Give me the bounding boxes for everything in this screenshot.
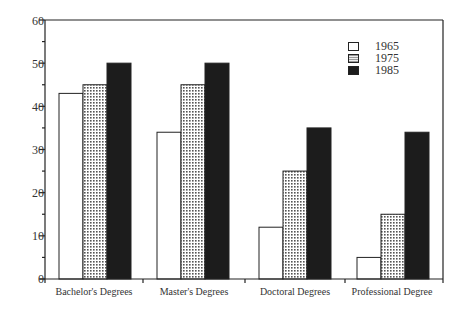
x-category-label: Professional Degree — [337, 286, 447, 297]
bar-1965 — [259, 227, 283, 279]
x-category-label: Bachelor's Degrees — [39, 286, 149, 297]
y-tick-label: 20 — [14, 186, 44, 201]
y-tick-label: 10 — [14, 229, 44, 244]
legend-item-1985: 1985 — [348, 64, 399, 76]
y-tick-label: 50 — [14, 57, 44, 72]
bar-1975 — [283, 171, 307, 279]
bar-1985 — [107, 63, 131, 279]
bar-1965 — [357, 257, 381, 279]
bar-1985 — [307, 128, 331, 279]
bar-1985 — [205, 63, 229, 279]
y-tick-label: 40 — [14, 100, 44, 115]
y-tick-label: 0 — [14, 272, 44, 287]
legend-swatch-dotted — [348, 54, 359, 63]
legend-swatch-white — [348, 42, 359, 51]
bar-1975 — [83, 85, 107, 279]
legend-swatch-black — [348, 66, 359, 75]
bar-1965 — [157, 132, 181, 279]
bar-1985 — [405, 132, 429, 279]
x-category-label: Doctoral Degrees — [240, 286, 350, 297]
y-tick-label: 30 — [14, 143, 44, 158]
bar-1975 — [181, 85, 205, 279]
x-category-label: Master's Degrees — [139, 286, 249, 297]
bar-1975 — [381, 214, 405, 279]
grouped-bar-chart: 0 10 20 30 40 50 60 Bachelor's Degrees M… — [0, 0, 463, 311]
y-tick-label: 60 — [14, 14, 44, 29]
bar-1965 — [59, 93, 83, 279]
